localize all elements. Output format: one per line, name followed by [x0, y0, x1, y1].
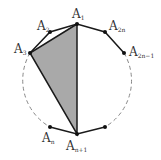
vertex-an1: [75, 132, 79, 136]
vertex-a2n: [103, 30, 107, 34]
vertex-a1: [75, 22, 79, 26]
vertex-an: [48, 125, 52, 129]
vertex-bottom-right: [103, 125, 107, 129]
label-a1: A1: [71, 7, 85, 21]
vertex-a2n-1: [122, 51, 126, 55]
vertex-a3: [28, 51, 32, 55]
label-a3: A3: [13, 42, 27, 56]
dashed-arc-right: [105, 53, 132, 127]
label-a2n-1: A2n−1: [128, 45, 154, 59]
shaded-triangle: [30, 24, 77, 134]
label-a2: A2: [36, 19, 50, 33]
label-a2n: A2n: [108, 19, 125, 33]
label-an1: An+1: [65, 139, 87, 153]
label-an: An: [41, 131, 55, 145]
polygon-diagram: A1 A2 A3 A2n A2n−1 An An+1: [0, 0, 161, 160]
